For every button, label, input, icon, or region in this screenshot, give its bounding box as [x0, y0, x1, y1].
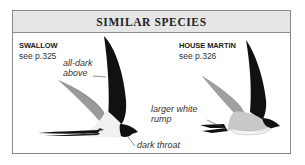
annotation-all-dark: all-dark	[63, 58, 93, 68]
species-name-house-martin: HOUSE MARTIN	[179, 41, 236, 50]
annotation-above: above	[63, 68, 88, 78]
species-reference-house-martin[interactable]: see p.326	[179, 51, 216, 61]
species-reference-swallow[interactable]: see p.325	[19, 51, 56, 61]
annotation-rump: rump	[151, 114, 172, 124]
species-name-swallow: SWALLOW	[19, 41, 57, 50]
annotation-dark-throat: dark throat	[137, 140, 180, 150]
annotation-larger-white: larger white	[151, 104, 198, 114]
